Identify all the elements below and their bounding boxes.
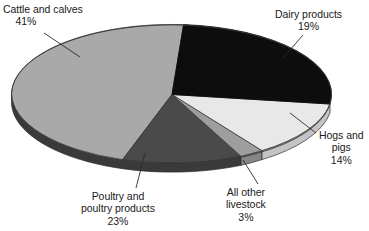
pie-3d-body bbox=[11, 24, 331, 172]
slice-label-other-text1: All other bbox=[226, 186, 266, 198]
leader-line-other bbox=[243, 160, 258, 184]
slice-label-poultry: Poultry and poultry products 23% bbox=[81, 190, 155, 227]
slice-label-other-value: 3% bbox=[226, 211, 266, 223]
slice-label-other-livestock: All other livestock 3% bbox=[226, 186, 266, 223]
slice-label-hogs: Hogs and pigs 14% bbox=[319, 129, 364, 166]
slice-label-hogs-value: 14% bbox=[319, 154, 364, 166]
pie-chart: Cattle and calves 41% Dairy products 19%… bbox=[0, 0, 369, 231]
slice-label-hogs-text2: pigs bbox=[319, 141, 364, 153]
slice-label-dairy-text: Dairy products bbox=[275, 8, 342, 20]
slice-label-cattle-value: 41% bbox=[3, 15, 83, 27]
slice-top-dairy bbox=[172, 25, 332, 104]
slice-label-other-text2: livestock bbox=[226, 198, 266, 210]
slice-label-dairy-value: 19% bbox=[275, 20, 342, 32]
pie-chart-graphic bbox=[0, 0, 369, 231]
slice-label-cattle: Cattle and calves 41% bbox=[3, 3, 83, 28]
slice-label-poultry-text1: Poultry and bbox=[81, 190, 155, 202]
slice-label-dairy: Dairy products 19% bbox=[275, 8, 342, 33]
slice-label-poultry-value: 23% bbox=[81, 215, 155, 227]
slice-label-hogs-text1: Hogs and bbox=[319, 129, 364, 141]
slice-label-poultry-text2: poultry products bbox=[81, 202, 155, 214]
slice-label-cattle-text: Cattle and calves bbox=[3, 3, 83, 15]
